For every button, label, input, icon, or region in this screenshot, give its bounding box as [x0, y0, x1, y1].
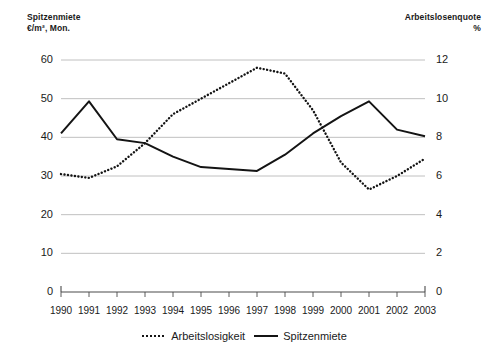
solid-line-icon — [254, 331, 278, 341]
x-axis-tick-label: 1991 — [76, 306, 102, 316]
series-line-spitzenmiete — [61, 101, 425, 171]
series-line-arbeitslosigkeit — [61, 68, 425, 190]
x-axis-tick-label: 2003 — [412, 306, 438, 316]
x-axis-tick-label: 1997 — [244, 306, 270, 316]
right-axis-tick-label: 8 — [436, 131, 470, 142]
gridlines — [61, 60, 425, 292]
x-axis-tick-label: 1992 — [104, 306, 130, 316]
right-axis-tick-label: 4 — [436, 209, 470, 220]
legend-item[interactable]: Spitzenmiete — [254, 330, 347, 342]
chart-legend: ArbeitslosigkeitSpitzenmiete — [0, 330, 489, 342]
x-axis-tick-label: 1994 — [160, 306, 186, 316]
x-axis-tick-label: 1995 — [188, 306, 214, 316]
x-axis-tick-label: 2002 — [384, 306, 410, 316]
x-axis-tick-label: 1999 — [300, 306, 326, 316]
right-axis-tick-label: 10 — [436, 93, 470, 104]
right-axis-tick-label: 0 — [436, 286, 470, 297]
left-axis-tick-label: 50 — [19, 93, 53, 104]
left-axis-tick-label: 10 — [19, 247, 53, 258]
legend-item-label: Spitzenmiete — [283, 330, 347, 342]
dotted-line-icon — [142, 331, 166, 341]
left-axis-tick-label: 30 — [19, 170, 53, 181]
x-axis-tick-label: 1990 — [48, 306, 74, 316]
chart-container: Spitzenmiete €/m², Mon. Arbeitslosenquot… — [0, 0, 489, 360]
series-layer — [61, 68, 425, 190]
right-axis-tick-label: 2 — [436, 247, 470, 258]
x-axis-tick-label: 1998 — [272, 306, 298, 316]
x-axis-tick-label: 2001 — [356, 306, 382, 316]
x-axis-tick-label: 1996 — [216, 306, 242, 316]
left-axis-tick-label: 20 — [19, 209, 53, 220]
left-axis-tick-label: 40 — [19, 131, 53, 142]
right-axis-tick-label: 6 — [436, 170, 470, 181]
left-axis-tick-label: 60 — [19, 54, 53, 65]
left-axis-tick-label: 0 — [19, 286, 53, 297]
x-axis-tick-label: 2000 — [328, 306, 354, 316]
legend-item-label: Arbeitslosigkeit — [171, 330, 245, 342]
right-axis-tick-label: 12 — [436, 54, 470, 65]
x-axis-ticks — [61, 292, 425, 297]
legend-item[interactable]: Arbeitslosigkeit — [142, 330, 245, 342]
x-axis-tick-label: 1993 — [132, 306, 158, 316]
